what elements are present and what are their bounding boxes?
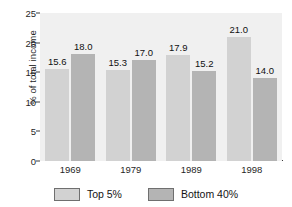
bar-value-label: 17.9	[169, 42, 188, 53]
bar-1969-bottom-40[interactable]	[71, 54, 95, 161]
y-tick-label: 25	[12, 8, 36, 19]
x-tick-label: 1989	[181, 164, 202, 175]
bar-1989-top-5[interactable]	[166, 55, 190, 161]
bars-container: 15.618.015.317.017.915.221.014.0	[40, 13, 282, 161]
bar-value-label: 17.0	[135, 47, 154, 58]
y-tick-label: 10	[12, 96, 36, 107]
y-axis-tick-labels: 0510152025	[12, 13, 36, 161]
y-tick-label: 15	[12, 67, 36, 78]
legend-swatch-icon-top-5	[54, 188, 80, 201]
bar-1989-bottom-40[interactable]	[192, 71, 216, 161]
bar-1979-bottom-40[interactable]	[132, 60, 156, 161]
y-tick-mark	[36, 42, 40, 43]
bar-value-label: 15.6	[48, 56, 67, 67]
legend-swatch-icon-bottom-40	[148, 188, 174, 201]
x-tick-label: 1979	[120, 164, 141, 175]
legend-label-top-5: Top 5%	[87, 188, 122, 200]
bar-value-label: 21.0	[230, 24, 249, 35]
chart-legend: Top 5% Bottom 40%	[0, 184, 292, 204]
legend-label-bottom-40: Bottom 40%	[181, 188, 238, 200]
y-tick-mark	[36, 101, 40, 102]
legend-item-top-5[interactable]: Top 5%	[54, 188, 122, 201]
bar-chart-figure: % of total income 0510152025 15.618.015.…	[0, 0, 292, 207]
x-tick-label: 1969	[60, 164, 81, 175]
bar-1979-top-5[interactable]	[106, 70, 130, 161]
y-tick-mark	[36, 131, 40, 132]
plot-area: 15.618.015.317.017.915.221.014.0	[40, 13, 282, 161]
y-tick-label: 20	[12, 37, 36, 48]
y-tick-mark	[36, 72, 40, 73]
y-tick-mark	[36, 13, 40, 14]
x-tick-label: 1998	[241, 164, 262, 175]
bar-value-label: 15.2	[195, 58, 214, 69]
x-axis-tick-labels: 1969197919891998	[40, 164, 282, 178]
legend-item-bottom-40[interactable]: Bottom 40%	[148, 188, 238, 201]
bar-1998-bottom-40[interactable]	[253, 78, 277, 161]
bar-value-label: 15.3	[109, 57, 128, 68]
y-tick-mark	[36, 161, 40, 162]
bar-value-label: 18.0	[74, 41, 93, 52]
bar-1969-top-5[interactable]	[45, 69, 69, 161]
bar-1998-top-5[interactable]	[227, 37, 251, 161]
y-tick-label: 5	[12, 126, 36, 137]
bar-value-label: 14.0	[256, 65, 275, 76]
y-tick-label: 0	[12, 156, 36, 167]
